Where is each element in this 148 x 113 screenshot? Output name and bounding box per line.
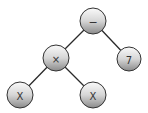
tree-node-seven: 7 [117,47,141,71]
tree-node-x-left: X [7,82,33,108]
node-label: × [52,54,60,65]
node-label: − [88,16,97,29]
nodes: −×7XX [7,8,141,108]
tree-node-times: × [43,45,69,71]
tree-node-x-right: X [80,82,106,108]
node-label: X [17,91,24,102]
node-label: X [90,91,97,102]
edges [20,21,129,95]
node-label: 7 [126,55,132,66]
expression-tree-diagram: −×7XX [0,0,148,113]
tree-node-root: − [80,8,106,34]
